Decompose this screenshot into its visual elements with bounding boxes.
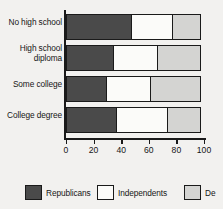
legend-item-independents: Independents — [97, 185, 167, 200]
x-axis-tick — [204, 140, 205, 144]
x-axis-tick — [121, 140, 122, 144]
bar-segment-democrats — [167, 107, 202, 133]
category-label-line2: diploma — [34, 53, 62, 63]
category-label-line1: High school — [20, 43, 62, 53]
x-axis-line — [66, 138, 206, 140]
legend-swatch-democrats — [184, 185, 201, 200]
x-axis-tick-label: 100 — [197, 145, 211, 155]
bar-segment-independents — [106, 76, 152, 102]
x-axis-tick — [176, 140, 177, 144]
bar-segment-independents — [131, 14, 174, 40]
bar-segment-democrats — [172, 14, 201, 40]
category-label-line1: No high school — [9, 17, 63, 27]
category-label-some-college: Some college — [0, 80, 62, 90]
category-label-no-high-school: No high school — [0, 18, 62, 28]
bar-row — [66, 45, 204, 71]
bar-segment-democrats — [150, 76, 201, 102]
bar-row — [66, 76, 204, 102]
legend-label-republicans: Republicans — [46, 188, 91, 198]
legend-label-democrats: De — [205, 188, 215, 198]
stacked-bar-chart: No high school High school diploma Some … — [0, 0, 223, 209]
legend-label-independents: Independents — [118, 188, 167, 198]
x-axis-tick-label: 40 — [116, 145, 126, 155]
x-axis-tick — [149, 140, 150, 144]
x-axis-tick-label: 0 — [64, 145, 69, 155]
bar-segment-democrats — [157, 45, 201, 71]
legend-item-republicans: Republicans — [25, 185, 91, 200]
x-axis-tick — [94, 140, 95, 144]
x-axis-tick — [66, 140, 67, 144]
bar-segment-republicans — [66, 14, 132, 40]
category-label-line1: Some college — [13, 79, 62, 89]
legend-swatch-independents — [97, 185, 114, 200]
bar-row — [66, 14, 204, 40]
x-axis-tick-label: 60 — [144, 145, 154, 155]
bar-segment-independents — [116, 107, 168, 133]
legend-item-democrats: De — [184, 185, 215, 200]
x-axis-tick-label: 20 — [89, 145, 99, 155]
bar-segment-republicans — [66, 45, 114, 71]
legend-swatch-republicans — [25, 185, 42, 200]
bar-row — [66, 107, 204, 133]
chart-legend: Republicans Independents De — [0, 185, 223, 209]
bar-segment-republicans — [66, 76, 107, 102]
bar-segment-republicans — [66, 107, 117, 133]
category-label-high-school-diploma: High school diploma — [0, 44, 62, 63]
x-axis-tick-label: 80 — [172, 145, 182, 155]
category-label-college-degree: College degree — [0, 111, 62, 121]
plot-area — [66, 10, 204, 138]
bar-segment-independents — [113, 45, 159, 71]
category-label-line1: College degree — [7, 110, 62, 120]
